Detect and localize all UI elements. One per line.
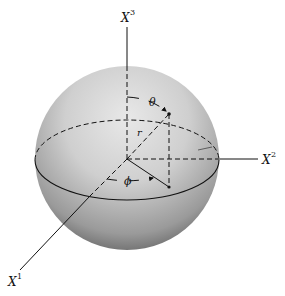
svg-text:X: X: [120, 11, 130, 25]
svg-text:1: 1: [17, 272, 22, 281]
x2-label: X 2: [261, 150, 276, 167]
phi-label: ϕ: [124, 175, 132, 188]
svg-text:3: 3: [130, 8, 135, 17]
x3-label: X 3: [120, 8, 135, 25]
theta-label: θ: [149, 96, 156, 109]
spherical-coordinates-diagram: θ ϕ r X 3 X 2 X 1: [0, 0, 285, 296]
svg-text:2: 2: [271, 150, 276, 159]
point-q: [167, 185, 170, 188]
svg-text:X: X: [7, 275, 17, 289]
svg-text:X: X: [261, 153, 271, 167]
x1-label: X 1: [7, 272, 22, 289]
